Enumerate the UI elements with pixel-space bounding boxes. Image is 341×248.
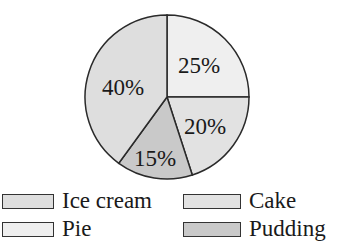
legend-label-pie: Pie — [62, 220, 91, 238]
legend-swatch-ice-cream — [2, 194, 54, 209]
legend-label-ice-cream: Ice cream — [62, 192, 152, 210]
legend-item-cake: Cake — [183, 192, 296, 210]
legend-swatch-pie — [2, 222, 54, 237]
legend-swatch-pudding — [183, 222, 241, 237]
legend-item-ice-cream: Ice cream — [2, 192, 152, 210]
legend-item-pudding: Pudding — [183, 220, 326, 238]
legend-item-pie: Pie — [2, 220, 91, 238]
legend: Ice cream Cake Pie Pudding — [0, 0, 341, 248]
legend-label-cake: Cake — [249, 192, 296, 210]
legend-label-pudding: Pudding — [249, 220, 326, 238]
legend-swatch-cake — [183, 194, 241, 209]
